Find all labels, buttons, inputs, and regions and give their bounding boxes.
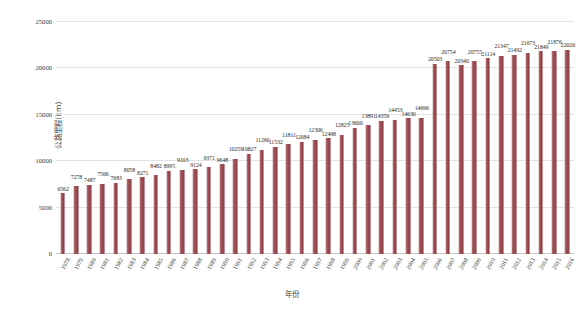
bar-group[interactable]: 20755: [468, 22, 481, 254]
y-tick-label: 15000: [36, 110, 52, 117]
bar[interactable]: [565, 50, 570, 254]
bar[interactable]: [206, 167, 211, 254]
bar[interactable]: [472, 61, 477, 254]
x-tick-label: 2010: [485, 257, 496, 270]
bar[interactable]: [127, 179, 132, 254]
bar[interactable]: [406, 118, 411, 254]
bar-group[interactable]: 7278: [69, 22, 82, 254]
bar[interactable]: [299, 142, 304, 254]
bar-group[interactable]: 7487: [83, 22, 96, 254]
bar[interactable]: [552, 51, 557, 254]
bar-group[interactable]: 8995: [162, 22, 175, 254]
bar-value-label: 11532: [269, 139, 283, 145]
bar-value-label: 9124: [190, 162, 201, 168]
bar-group[interactable]: 13891: [361, 22, 374, 254]
bar-value-label: 12825: [335, 122, 349, 128]
bar[interactable]: [525, 53, 530, 254]
bar-value-label: 12306: [308, 127, 322, 133]
bar[interactable]: [353, 128, 358, 254]
bar[interactable]: [459, 65, 464, 254]
bar-group[interactable]: 10827: [242, 22, 255, 254]
bar-group[interactable]: 11811: [282, 22, 295, 254]
bar[interactable]: [246, 154, 251, 254]
bar-group[interactable]: 21114: [481, 22, 494, 254]
bar-group[interactable]: 9371: [202, 22, 215, 254]
x-tick-label: 2003: [392, 257, 403, 270]
bar-group[interactable]: 22026: [561, 22, 574, 254]
bar[interactable]: [432, 64, 437, 254]
x-tick-label: 1998: [325, 257, 336, 270]
bar[interactable]: [153, 175, 158, 254]
bar[interactable]: [180, 170, 185, 254]
x-tick-label: 2016: [564, 257, 575, 270]
bar[interactable]: [366, 125, 371, 254]
y-tick-label: 5000: [39, 203, 52, 210]
bar[interactable]: [326, 138, 331, 254]
bar-value-label: 8482: [150, 163, 161, 169]
bar[interactable]: [193, 169, 198, 254]
bar-group[interactable]: 6562: [56, 22, 69, 254]
bar-value-label: 20754: [441, 49, 455, 55]
bar[interactable]: [87, 185, 92, 254]
bar-group[interactable]: 9648: [215, 22, 228, 254]
bar-group[interactable]: 12825: [335, 22, 348, 254]
x-tick-label: 1978: [60, 257, 71, 270]
x-tick-label: 1985: [153, 257, 164, 270]
bar-group[interactable]: 8271: [136, 22, 149, 254]
bar[interactable]: [485, 58, 490, 254]
bar-group[interactable]: 9103: [176, 22, 189, 254]
y-tick-label: 20000: [36, 64, 52, 71]
bar-group[interactable]: 20503: [428, 22, 441, 254]
x-tick-label: 2014: [538, 257, 549, 270]
bar-group[interactable]: 12084: [295, 22, 308, 254]
bar[interactable]: [74, 186, 79, 254]
bar[interactable]: [286, 144, 291, 254]
bar[interactable]: [140, 177, 145, 254]
x-tick-label: 1999: [339, 257, 350, 270]
bar-group[interactable]: 14453: [388, 22, 401, 254]
bar[interactable]: [100, 184, 105, 254]
bar[interactable]: [313, 140, 318, 254]
bar-group[interactable]: 21849: [534, 22, 547, 254]
bar-group[interactable]: 21673: [521, 22, 534, 254]
bar[interactable]: [446, 61, 451, 254]
bar[interactable]: [233, 159, 238, 254]
bar-group[interactable]: 20340: [454, 22, 467, 254]
bar-value-label: 8058: [124, 167, 135, 173]
bar[interactable]: [260, 150, 265, 254]
bar[interactable]: [339, 135, 344, 254]
bar[interactable]: [220, 164, 225, 254]
bar[interactable]: [538, 51, 543, 254]
bar-group[interactable]: 21876: [547, 22, 560, 254]
bar[interactable]: [379, 121, 384, 254]
bar-group[interactable]: 8058: [122, 22, 135, 254]
bar-group[interactable]: 10259: [229, 22, 242, 254]
bar-group[interactable]: 7566: [96, 22, 109, 254]
x-tick-label: 1991: [232, 257, 243, 270]
bar-group[interactable]: 21492: [508, 22, 521, 254]
bar-group[interactable]: 21347: [494, 22, 507, 254]
bar[interactable]: [392, 120, 397, 254]
bar-group[interactable]: 9124: [189, 22, 202, 254]
bar[interactable]: [60, 193, 65, 254]
bar-value-label: 21673: [521, 40, 535, 46]
bar-group[interactable]: 8482: [149, 22, 162, 254]
bar-group[interactable]: 12498: [322, 22, 335, 254]
bar-group[interactable]: 14696: [415, 22, 428, 254]
bar[interactable]: [512, 55, 517, 254]
bar[interactable]: [419, 118, 424, 254]
bar-group[interactable]: 14630: [401, 22, 414, 254]
bar-value-label: 7487: [84, 177, 95, 183]
bar[interactable]: [273, 147, 278, 254]
bar[interactable]: [167, 171, 172, 254]
bar-group[interactable]: 12306: [308, 22, 321, 254]
bar-group[interactable]: 11260: [255, 22, 268, 254]
bar-value-label: 20503: [428, 56, 442, 62]
bar-group[interactable]: 20754: [441, 22, 454, 254]
bar[interactable]: [113, 183, 118, 254]
bar-group[interactable]: 13600: [348, 22, 361, 254]
bar[interactable]: [499, 56, 504, 254]
bar-group[interactable]: 7683: [109, 22, 122, 254]
bar-group[interactable]: 14359: [375, 22, 388, 254]
bar-group[interactable]: 11532: [269, 22, 282, 254]
